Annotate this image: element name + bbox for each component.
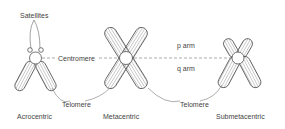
submetacentric-label: Submetacentric xyxy=(216,113,265,120)
telomere-label-right: Telomere xyxy=(180,101,209,108)
telomere-line-right xyxy=(148,88,180,102)
acrocentric-chromosome xyxy=(13,20,58,92)
p-arm-label: p arm xyxy=(177,42,195,49)
centromere-label: Centromere xyxy=(58,55,95,62)
q-arm-label: q arm xyxy=(177,65,195,72)
acrocentric-label: Acrocentric xyxy=(17,113,52,120)
metacentric-label: Metacentric xyxy=(103,113,139,120)
chromosome-diagram xyxy=(0,0,285,129)
satellites-label: Satellites xyxy=(20,12,48,19)
telomere-label-left: Telomere xyxy=(62,101,91,108)
submetacentric-chromosome xyxy=(216,37,263,90)
telomere-line-left xyxy=(52,88,70,102)
